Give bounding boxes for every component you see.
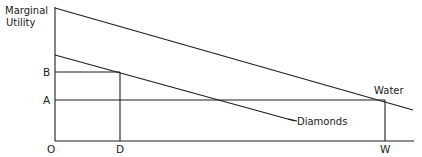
diamonds-label: Diamonds: [297, 116, 347, 127]
tick-label-d: D: [116, 143, 124, 155]
tick-label-b: B: [43, 66, 50, 78]
water-label: Water: [374, 85, 404, 96]
origin-label: O: [47, 143, 55, 155]
tick-label-w: W: [380, 143, 391, 155]
y-axis-label-line1: Marginal: [5, 5, 48, 16]
water-curve: [55, 8, 413, 110]
y-axis-label-line2: Utility: [6, 17, 35, 28]
diamonds-curve: [55, 55, 295, 121]
marginal-utility-diagram: Marginal Utility B A O D W Water Diamond…: [0, 0, 422, 157]
tick-label-a: A: [43, 94, 51, 106]
